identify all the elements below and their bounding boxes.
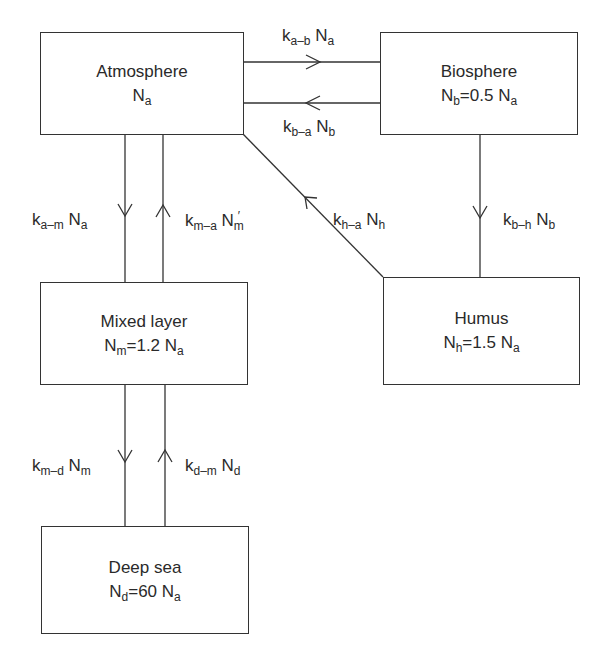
reservoir-mixed-layer: Mixed layer Nm=1.2 Na [40,282,248,385]
flux-label-m-a: km–a Nm′ [185,206,240,231]
flux-label-a-b: ka–b Na [282,26,334,46]
flux-label-m-d: km–d Nm [32,456,91,476]
reservoir-quantity: Nm=1.2 Na [104,334,184,358]
reservoir-atmosphere: Atmosphere Na [40,32,244,135]
flow-line-h-a [243,134,383,277]
reservoir-title: Mixed layer [101,310,188,334]
reservoir-biosphere: Biosphere Nb=0.5 Na [380,32,578,135]
reservoir-quantity: Nd=60 Na [109,580,181,604]
flux-label-d-m: kd–m Nd [185,456,241,476]
reservoir-humus: Humus Nh=1.5 Na [383,277,580,385]
reservoir-title: Biosphere [441,60,518,84]
reservoir-deep-sea: Deep sea Nd=60 Na [41,526,249,634]
flux-label-b-h: kb–h Nb [503,210,555,230]
reservoir-quantity: Nh=1.5 Na [443,331,519,355]
reservoir-quantity: Nb=0.5 Na [441,84,517,108]
reservoir-title: Humus [455,307,509,331]
flux-label-a-m: ka–m Na [32,210,88,230]
flux-label-h-a: kh–a Nh [333,210,385,230]
reservoir-title: Atmosphere [96,60,188,84]
flux-label-b-a: kb–a Nb [283,117,335,137]
reservoir-quantity: Na [133,84,152,108]
reservoir-title: Deep sea [109,556,182,580]
